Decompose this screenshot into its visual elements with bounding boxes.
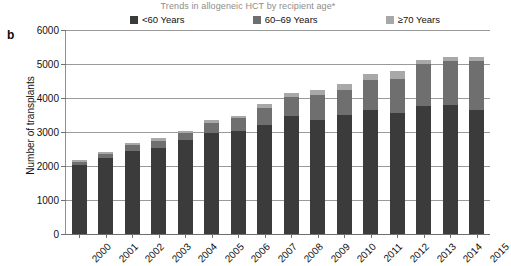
x-tick-mark (265, 234, 266, 238)
bar-segment[interactable] (284, 97, 299, 116)
bar-slot[interactable] (390, 30, 405, 234)
legend-swatch-icon (130, 16, 138, 24)
bar-segment[interactable] (390, 79, 405, 113)
x-tick-label: 2015 (487, 241, 511, 265)
x-tick-label: 2001 (116, 241, 140, 265)
x-tick-label: 2002 (143, 241, 167, 265)
stacked-bar[interactable] (98, 152, 113, 234)
bar-segment[interactable] (204, 123, 219, 133)
stacked-bar[interactable] (178, 131, 193, 234)
stacked-bar[interactable] (390, 71, 405, 234)
bar-segment[interactable] (98, 158, 113, 234)
stacked-bar[interactable] (416, 60, 431, 234)
stacked-bar[interactable] (363, 74, 378, 234)
x-tick-label: 2009 (328, 241, 352, 265)
x-tick-mark (371, 234, 372, 238)
y-tick-label: 6000 (37, 25, 59, 36)
stacked-bar[interactable] (151, 138, 166, 234)
bar-slot[interactable] (204, 30, 219, 234)
bar-segment[interactable] (363, 110, 378, 234)
stacked-bar[interactable] (310, 90, 325, 234)
bar-segment[interactable] (178, 133, 193, 140)
x-tick-label: 2011 (381, 241, 404, 264)
bar-slot[interactable] (443, 30, 458, 234)
bar-segment[interactable] (151, 141, 166, 149)
bar-slot[interactable] (231, 30, 246, 234)
panel-letter: b (7, 28, 14, 42)
bar-series-group (66, 30, 490, 234)
y-tick-mark (61, 234, 66, 235)
bar-segment[interactable] (363, 80, 378, 111)
x-tick-mark (344, 234, 345, 238)
bar-slot[interactable] (363, 30, 378, 234)
bar-slot[interactable] (151, 30, 166, 234)
bar-slot[interactable] (257, 30, 272, 234)
y-tick-label: 4000 (37, 93, 59, 104)
x-tick-label: 2008 (302, 241, 326, 265)
bar-segment[interactable] (72, 165, 87, 234)
bar-segment[interactable] (416, 106, 431, 234)
x-tick-mark (159, 234, 160, 238)
bar-segment[interactable] (443, 105, 458, 234)
x-tick-mark (212, 234, 213, 238)
bar-segment[interactable] (310, 120, 325, 234)
stacked-bar[interactable] (469, 57, 484, 234)
bar-segment[interactable] (337, 90, 352, 115)
bar-segment[interactable] (204, 133, 219, 234)
bar-segment[interactable] (257, 108, 272, 125)
x-tick-mark (132, 234, 133, 238)
bar-slot[interactable] (416, 30, 431, 234)
bar-segment[interactable] (310, 95, 325, 119)
legend-label: <60 Years (142, 14, 185, 25)
bar-slot[interactable] (98, 30, 113, 234)
x-tick-mark (424, 234, 425, 238)
bar-segment[interactable] (125, 151, 140, 234)
gridline (66, 234, 490, 235)
stacked-bar[interactable] (443, 57, 458, 234)
bar-slot[interactable] (284, 30, 299, 234)
bar-segment[interactable] (443, 61, 458, 105)
bar-slot[interactable] (125, 30, 140, 234)
stacked-bar[interactable] (125, 143, 140, 234)
chart-title: Trends in allogeneic HCT by recipient ag… (0, 1, 496, 11)
bar-segment[interactable] (257, 125, 272, 234)
bar-segment[interactable] (469, 110, 484, 234)
y-tick-label: 2000 (37, 161, 59, 172)
bar-segment[interactable] (390, 113, 405, 234)
bar-segment[interactable] (231, 118, 246, 131)
bar-slot[interactable] (469, 30, 484, 234)
x-tick-label: 2005 (222, 241, 246, 265)
stacked-bar[interactable] (337, 84, 352, 234)
bar-slot[interactable] (310, 30, 325, 234)
bar-slot[interactable] (72, 30, 87, 234)
legend-label: ≥70 Years (398, 14, 440, 25)
legend-item: 60–69 Years (253, 14, 318, 25)
x-tick-mark (79, 234, 80, 238)
stacked-bar[interactable] (231, 116, 246, 234)
stacked-bar[interactable] (204, 120, 219, 234)
bar-segment[interactable] (469, 61, 484, 110)
bar-segment[interactable] (337, 115, 352, 234)
chart-legend: <60 Years60–69 Years≥70 Years (130, 13, 440, 26)
y-tick-label: 0 (53, 229, 59, 240)
x-tick-mark (477, 234, 478, 238)
bar-segment[interactable] (231, 131, 246, 234)
bar-segment[interactable] (151, 148, 166, 234)
plot-area: 0100020003000400050006000 20002001200220… (66, 30, 490, 234)
y-tick-label: 1000 (37, 195, 59, 206)
bar-segment[interactable] (416, 64, 431, 107)
bar-segment[interactable] (390, 71, 405, 79)
x-tick-label: 2006 (249, 241, 273, 265)
x-tick-mark (238, 234, 239, 238)
x-tick-mark (185, 234, 186, 238)
stacked-bar[interactable] (284, 93, 299, 234)
y-tick-label: 3000 (37, 127, 59, 138)
stacked-bar[interactable] (72, 160, 87, 234)
bar-slot[interactable] (178, 30, 193, 234)
bar-segment[interactable] (284, 116, 299, 234)
legend-item: ≥70 Years (386, 14, 440, 25)
stacked-bar[interactable] (257, 104, 272, 234)
bar-slot[interactable] (337, 30, 352, 234)
bar-segment[interactable] (178, 140, 193, 234)
